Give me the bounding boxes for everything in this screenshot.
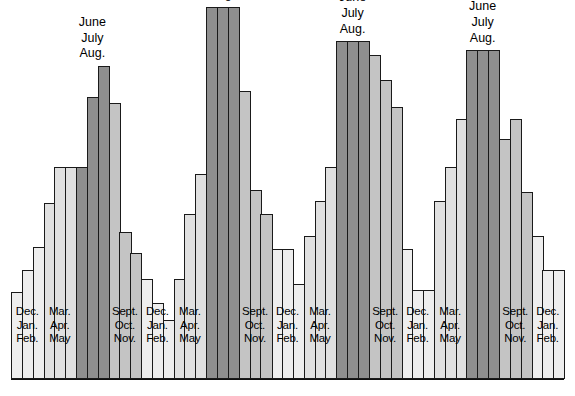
bar-summer-aug [98,66,110,379]
chart-figure: Dec.Jan.Feb.Mar.Apr.MayJuneJulyAug.Sept.… [0,0,575,396]
bar-autumn-nov [391,107,403,379]
label-line: July [323,6,383,22]
plot-area: Dec.Jan.Feb.Mar.Apr.MayJuneJulyAug.Sept.… [11,0,564,379]
label-line: June [453,0,513,15]
bar-autumn-nov [260,214,272,379]
label-line: Aug. [323,22,383,38]
label-line: June [62,15,122,31]
label-line: June [323,0,383,6]
label-line: Aug. [62,46,122,62]
bar-winter-feb [553,270,565,379]
group-top-label-summer: JuneJulyAug. [193,0,253,3]
label-line: Aug. [453,31,513,47]
group-top-label-summer: JuneJulyAug. [62,15,122,62]
bar-summer-aug [488,50,500,379]
label-line: Aug. [193,0,253,3]
group-top-label-summer: JuneJulyAug. [453,0,513,46]
bar-autumn-nov [130,253,142,379]
bar-summer-aug [358,41,370,379]
label-line: July [62,31,122,47]
bar-autumn-nov [521,192,533,379]
label-line: July [453,15,513,31]
group-top-label-summer: JuneJulyAug. [323,0,383,37]
bar-summer-aug [228,7,240,379]
